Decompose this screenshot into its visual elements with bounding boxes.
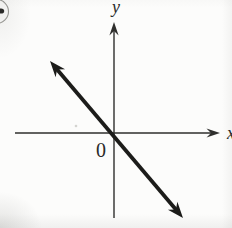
graph-line-segment: [55, 67, 178, 212]
y-axis: [109, 22, 118, 218]
origin-label: 0: [96, 139, 106, 161]
x-axis-label: x: [226, 123, 232, 143]
scan-speck: [75, 125, 78, 128]
graph-line: [45, 57, 187, 222]
x-axis: [15, 128, 220, 137]
y-axis-label: y: [110, 0, 120, 17]
problem-number-circle: [0, 0, 9, 24]
problem-number-glyph-fragment: [0, 8, 4, 13]
textbook-figure: y x 0: [0, 0, 232, 228]
coordinate-plane: y x 0: [0, 0, 232, 228]
